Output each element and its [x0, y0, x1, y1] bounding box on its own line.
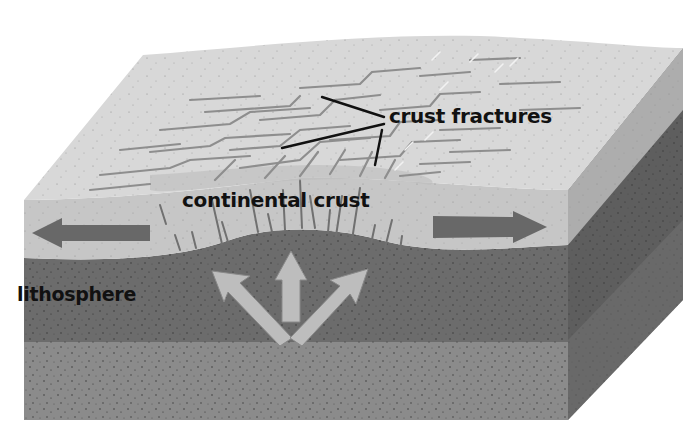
asthenosphere-layer: [24, 340, 568, 420]
continental-crust-label: continental crust: [182, 188, 370, 212]
crust-fractures-label: crust fractures: [389, 104, 552, 128]
block-diagram-graphic: [0, 0, 696, 441]
rift-block-diagram: crust fractures continental crust lithos…: [0, 0, 696, 441]
lithosphere-label: lithosphere: [17, 283, 136, 305]
